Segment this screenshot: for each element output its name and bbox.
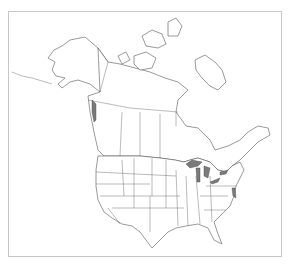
aleutian-islands <box>12 72 52 84</box>
banks-island[interactable] <box>118 52 130 64</box>
victoria-island[interactable] <box>134 52 156 70</box>
canada[interactable] <box>88 48 270 172</box>
north-america-map <box>0 0 292 266</box>
queen-elizabeth-islands[interactable] <box>142 30 166 48</box>
ellesmere-island[interactable] <box>168 18 182 36</box>
baffin-island[interactable] <box>195 55 226 90</box>
